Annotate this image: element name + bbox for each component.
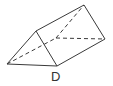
visible-edges [7,5,105,66]
prism-hidden-edge [7,38,56,64]
prism-hidden-edge [56,38,105,39]
prism-edge [36,31,57,66]
prism-diagram: D [0,0,113,86]
prism-edge [36,5,84,31]
figure-label: D [51,70,60,83]
prism-hidden-edge [56,5,84,38]
prism-edge [7,64,57,66]
prism-edge [7,31,36,64]
hidden-edges [7,5,105,64]
prism-edge [57,39,105,66]
prism-edge [84,5,105,39]
